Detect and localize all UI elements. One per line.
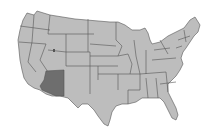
utah-marker [53, 49, 55, 52]
us-outline [18, 11, 200, 126]
us-map [0, 0, 222, 134]
